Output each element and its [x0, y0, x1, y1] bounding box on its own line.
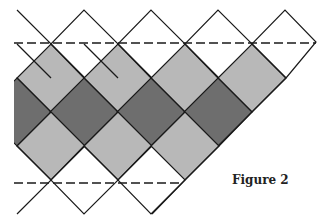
diamond-tiling-diagram [0, 0, 326, 221]
figure-canvas: Figure 2 [0, 0, 326, 221]
figure-caption: Figure 2 [232, 173, 289, 187]
light-diamonds-lower [17, 112, 219, 180]
